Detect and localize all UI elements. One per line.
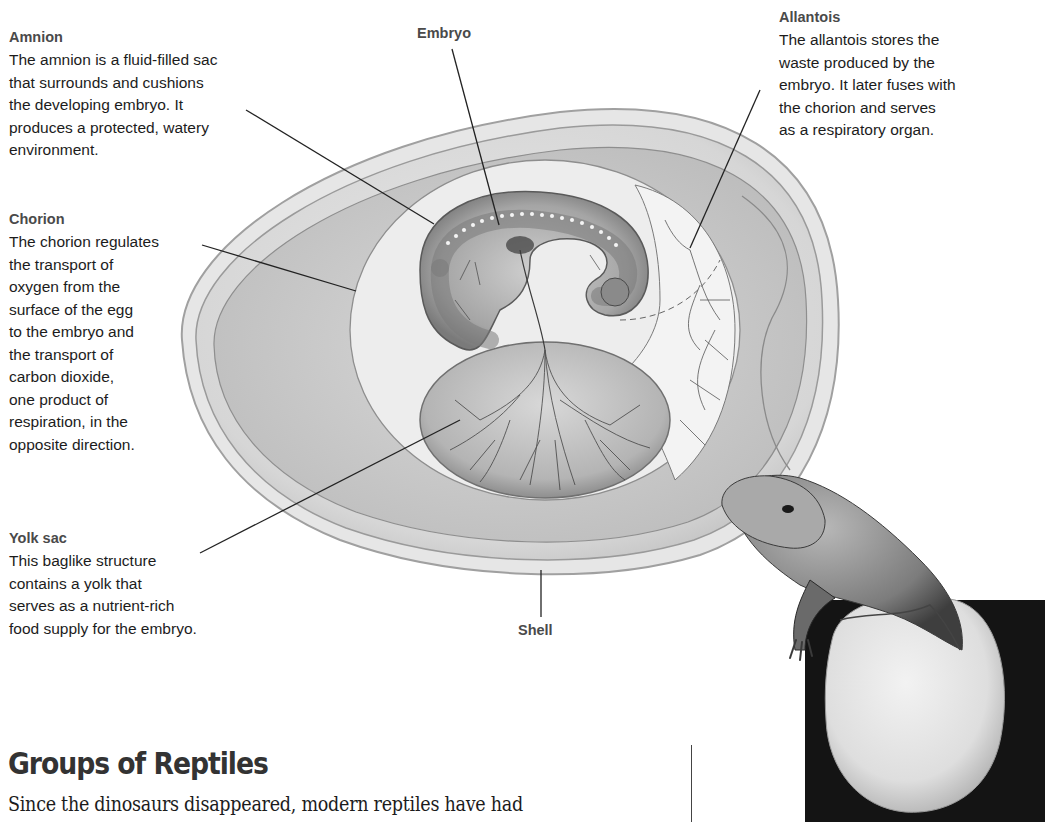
amnion-title: Amnion [9,27,279,47]
embryo-label: Embryo [417,25,471,41]
chorion-title: Chorion [9,209,209,229]
amnion-description: The amnion is a fluid-filled sac that su… [9,49,279,162]
section-heading: Groups of Reptiles [8,745,268,781]
allantois-callout: Allantois The allantois stores the waste… [779,7,1039,142]
yolk-sac [420,342,670,498]
amnion-callout: Amnion The amnion is a fluid-filled sac … [9,27,279,162]
embryo-tail-curl [601,278,629,306]
chorion-description: The chorion regulates the transport of o… [9,231,209,456]
yolk-sac-title: Yolk sac [9,528,269,548]
section-body-text: Since the dinosaurs disappeared, modern … [8,793,523,816]
allantois-title: Allantois [779,7,1039,27]
shell-label: Shell [518,622,553,638]
yolk-sac-callout: Yolk sac This baglike structure contains… [9,528,269,640]
lizard-eye [782,505,794,513]
hatchling-photo [722,475,1005,812]
chorion-callout: Chorion The chorion regulates the transp… [9,209,209,456]
yolk-sac-description: This baglike structure contains a yolk t… [9,550,269,640]
allantois-description: The allantois stores the waste produced … [779,29,1039,142]
column-divider [691,745,692,822]
